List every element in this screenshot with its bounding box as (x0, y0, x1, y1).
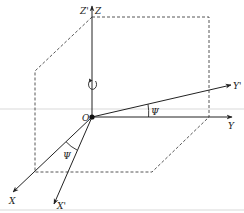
z-label: Z (94, 6, 102, 16)
x-prime-label: X' (56, 201, 66, 211)
y-prime-label: Y' (233, 81, 241, 91)
angle-arc-y (148, 104, 149, 117)
dashed-plane-tilted (35, 17, 209, 172)
angle-arc-x (66, 142, 77, 150)
x-prime-axis (54, 117, 92, 204)
origin-label: O (82, 113, 90, 123)
y-label: Y (228, 121, 235, 131)
dashed-plane-yz (92, 17, 209, 117)
psi-lower-label: Ψ (63, 151, 72, 161)
rotation-icon (89, 79, 97, 90)
psi-upper-label: Ψ (151, 107, 160, 117)
y-prime-axis (92, 85, 231, 117)
x-axis (13, 117, 92, 192)
origin-point (89, 114, 94, 119)
x-label: X (8, 196, 16, 206)
rotation-diagram: Z' Z O Y Y' X X' Ψ Ψ (0, 0, 244, 213)
z-prime-label: Z' (79, 6, 89, 16)
